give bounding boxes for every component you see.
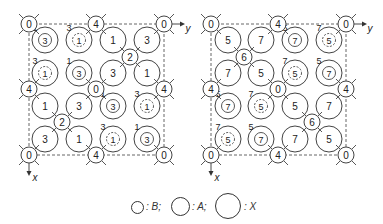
b-atom-height: 0 [343, 19, 349, 30]
b-atom: 0 [19, 145, 39, 165]
x-atom-height: 7 [326, 101, 332, 112]
b-atom-height: 4 [275, 19, 281, 30]
x-atom-height: 3 [42, 134, 48, 145]
x-atom: 13 [66, 23, 92, 53]
a-atom-sup: 5 [248, 122, 253, 132]
a-atom-sup: 7 [248, 89, 253, 99]
b-atom: 0 [201, 145, 221, 165]
x-atom-height: 1 [76, 134, 82, 145]
legend-a-label: : A; [192, 201, 207, 212]
b-atom-height: 4 [161, 84, 167, 95]
b-atom: 4 [86, 14, 106, 34]
x-atom-height: 1 [144, 68, 150, 79]
a-atom-height: 1 [42, 69, 47, 79]
legend-x-circle-icon [215, 193, 241, 219]
b-atom-height: 6 [309, 117, 315, 128]
legend: : B; : A; : X [0, 196, 383, 220]
b-atom: 0 [19, 14, 39, 34]
legend-b-label: : B; [146, 201, 161, 212]
b-atom-height: 2 [59, 117, 65, 128]
a-atom-sup: 3 [66, 23, 71, 33]
a-atom-sup: 3 [100, 122, 105, 132]
x-atom: 57 [248, 89, 274, 119]
b-atom: 0 [154, 14, 174, 34]
b-atom-height: 0 [275, 84, 281, 95]
a-atom-height: 1 [144, 102, 149, 112]
b-atom-height: 4 [208, 84, 214, 95]
a-atom-sup: 5 [316, 56, 321, 66]
x-axis-label: x [214, 172, 221, 183]
a-atom-sup: 3 [134, 89, 139, 99]
y-axis-arrow-icon [362, 22, 367, 27]
panel-left: yx31131313313113311331133104024042040 [19, 14, 192, 183]
y-axis-label: y [185, 23, 192, 34]
a-atom-height: 7 [326, 69, 331, 79]
b-atom-height: 4 [93, 19, 99, 30]
b-atom-height: 4 [93, 150, 99, 161]
b-atom-height: 0 [26, 150, 32, 161]
b-atom: 0 [201, 14, 221, 34]
a-atom-height: 7 [258, 135, 263, 145]
b-atom-height: 0 [343, 150, 349, 161]
a-atom-height: 1 [76, 36, 81, 46]
b-atom: 0 [86, 79, 106, 99]
x-atom: 75 [215, 89, 241, 119]
x-atom-height: 7 [225, 68, 231, 79]
b-atom: 6 [234, 47, 254, 67]
x-atom-height: 3 [144, 35, 150, 46]
x-atom: 5 [215, 27, 241, 53]
b-atom: 4 [19, 79, 39, 99]
x-atom: 5 [248, 60, 274, 86]
a-atom-height: 7 [292, 36, 297, 46]
panel-right: yx57755775577575575757757504064046040 [201, 14, 374, 183]
x-atom-height: 3 [110, 68, 116, 79]
x-atom-height: 5 [326, 134, 332, 145]
a-atom-height: 7 [225, 102, 230, 112]
b-atom-height: 4 [343, 84, 349, 95]
x-atom: 3 [100, 60, 126, 86]
a-atom-height: 3 [110, 102, 115, 112]
x-atom-height: 5 [292, 101, 298, 112]
x-atom-height: 7 [258, 35, 264, 46]
a-atom-sup: 3 [32, 56, 37, 66]
b-atom: 0 [336, 14, 356, 34]
x-atom-height: 1 [110, 35, 116, 46]
legend-a-circle-icon [171, 197, 190, 216]
x-atom-height: 5 [225, 35, 231, 46]
a-atom-sup: 1 [134, 122, 139, 132]
a-atom-sup: 7 [282, 56, 287, 66]
b-atom: 6 [302, 112, 322, 132]
b-atom-height: 0 [161, 19, 167, 30]
x-atom-height: 7 [292, 134, 298, 145]
x-axis-arrow-icon [209, 171, 214, 176]
b-atom: 4 [86, 145, 106, 165]
legend-b-circle-icon [131, 201, 144, 214]
b-atom: 4 [154, 79, 174, 99]
x-atom-height: 1 [42, 101, 48, 112]
b-atom-height: 0 [161, 150, 167, 161]
a-atom-height: 5 [225, 135, 230, 145]
a-atom-height: 3 [144, 135, 149, 145]
b-atom-height: 6 [241, 52, 247, 63]
x-axis-label: x [32, 172, 39, 183]
x-atom-height: 5 [258, 68, 264, 79]
a-atom-height: 3 [76, 69, 81, 79]
b-atom: 0 [336, 145, 356, 165]
b-atom-height: 0 [208, 19, 214, 30]
b-atom-height: 0 [93, 84, 99, 95]
x-atom: 75 [282, 23, 308, 53]
b-atom-height: 4 [275, 150, 281, 161]
a-atom-sup: 7 [316, 23, 321, 33]
b-atom-height: 2 [127, 52, 133, 63]
a-atom-height: 5 [326, 36, 331, 46]
b-atom: 0 [268, 79, 288, 99]
a-atom-height: 5 [292, 69, 297, 79]
a-atom-height: 1 [110, 135, 115, 145]
crystal-structure-diagram: yx31131313313113311331133104024042040yx5… [0, 0, 383, 224]
b-atom-height: 0 [26, 19, 32, 30]
b-atom-height: 0 [208, 150, 214, 161]
b-atom: 4 [201, 79, 221, 99]
y-axis-arrow-icon [180, 22, 185, 27]
legend-x-label: : X [244, 201, 256, 212]
a-atom-sup: 1 [66, 56, 71, 66]
